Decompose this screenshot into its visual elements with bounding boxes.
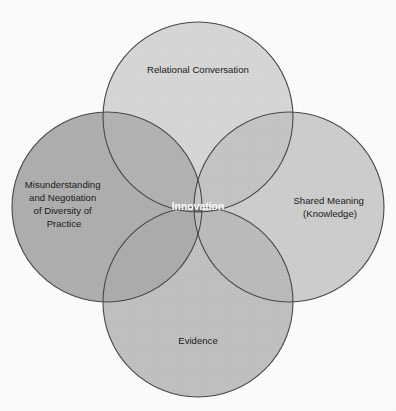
label-misunderstanding-line-1: Misunderstanding: [25, 178, 101, 189]
label-relational-conversation: Relational Conversation: [147, 64, 249, 75]
label-misunderstanding-line-3: of Diversity of: [34, 204, 92, 215]
venn-diagram: Relational Conversation Misunderstanding…: [0, 0, 396, 411]
label-misunderstanding-line-2: and Negotiation: [29, 191, 96, 202]
label-evidence: Evidence: [178, 335, 217, 346]
label-shared-meaning-line-1: Shared Meaning: [293, 195, 363, 206]
label-misunderstanding-line-4: Practice: [47, 217, 82, 228]
label-innovation: Innovation: [172, 201, 225, 212]
label-shared-meaning-line-2: (Knowledge): [303, 208, 357, 219]
venn-diagram-canvas: Relational Conversation Misunderstanding…: [0, 0, 396, 411]
